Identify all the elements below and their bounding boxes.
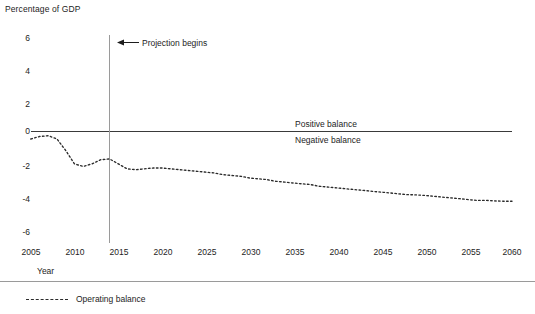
chart-figure: Percentage of GDP 6 4 2 0 -2 -4 -6 Proje…	[0, 0, 535, 314]
x-tick-label: 2040	[319, 247, 359, 257]
x-tick-label: 2025	[187, 247, 227, 257]
x-axis-title: Year	[37, 266, 54, 276]
legend: Operating balance	[26, 294, 145, 304]
x-tick-label: 2035	[275, 247, 315, 257]
x-tick-label: 2050	[407, 247, 447, 257]
x-tick-label: 2010	[55, 247, 95, 257]
x-tick-label: 2045	[363, 247, 403, 257]
x-tick-label: 2055	[451, 247, 491, 257]
projection-arrow-icon	[117, 40, 139, 46]
positive-balance-label: Positive balance	[295, 119, 357, 129]
negative-balance-label: Negative balance	[295, 135, 361, 145]
legend-dash-swatch-icon	[26, 299, 68, 300]
x-tick-label: 2030	[231, 247, 271, 257]
legend-item-label: Operating balance	[76, 294, 145, 304]
projection-annotation-label: Projection begins	[142, 38, 207, 48]
plot-canvas	[0, 0, 535, 314]
legend-divider	[0, 281, 535, 282]
x-tick-label: 2005	[11, 247, 51, 257]
x-tick-label: 2015	[99, 247, 139, 257]
x-tick-label: 2020	[143, 247, 183, 257]
series-operating-balance	[31, 136, 512, 202]
x-tick-label: 2060	[492, 247, 532, 257]
